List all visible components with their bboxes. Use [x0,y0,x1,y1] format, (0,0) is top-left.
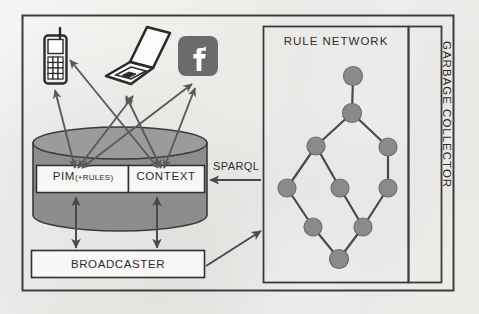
sparql-label: SPARQL [213,160,259,172]
laptop-icon [106,27,170,84]
rule-network-node [344,67,363,86]
facebook-icon [178,36,218,76]
rule-network-node [379,179,397,197]
rule-network-node [307,137,325,155]
rule-network-edges [287,76,388,259]
rule-network-nodes [278,67,397,269]
rule-network-node [343,104,362,123]
rule-network-node [379,138,397,156]
rule-network-node [330,250,349,269]
rule-network-title: RULE NETWORK [272,35,400,47]
diagram-page: PIM(+RULES) CONTEXT BROADCASTER SPARQL R… [0,0,479,314]
pim-rules-text: (+RULES) [75,173,113,182]
garbage-collector-panel [409,27,442,283]
rule-network-node [354,218,372,236]
garbage-collector-title: GARBAGE COLLECTOR [441,41,453,161]
broadcaster-label: BROADCASTER [34,258,202,270]
pim-text: PIM [53,170,75,182]
pim-label: PIM(+RULES) [40,170,126,182]
rule-network-node [304,218,322,236]
rule-network-node [278,179,296,197]
broadcaster-rule-network-arrow [206,231,261,266]
rule-network-node [331,179,349,197]
mobile-phone-icon [45,28,67,84]
context-label: CONTEXT [128,170,204,182]
